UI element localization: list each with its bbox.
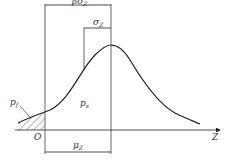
origin-label: O [34, 132, 42, 142]
ps-label: ps [80, 98, 89, 109]
mu-label: μZ [73, 140, 84, 151]
pf-label: pf [10, 97, 20, 109]
beta-sigma-label: βσZ [71, 0, 88, 7]
axis-label: Z [211, 132, 219, 142]
pf-leader [20, 106, 30, 117]
reliability-diagram: βσZ σZ μZ pf ps O Z [0, 0, 229, 166]
sigma-label: σZ [93, 17, 104, 28]
